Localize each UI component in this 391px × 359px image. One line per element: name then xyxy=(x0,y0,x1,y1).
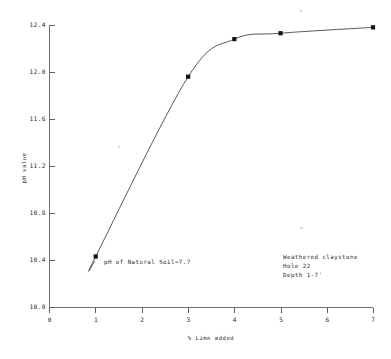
scan-speck xyxy=(118,146,120,148)
y-axis-title: pH value xyxy=(21,152,28,183)
y-tick-label-4: 10.8 xyxy=(29,209,46,216)
x-tick-label-1: 1 xyxy=(94,316,98,323)
y-tick-label-0: 12.4 xyxy=(29,21,46,28)
y-tick-label-6: 10.0 xyxy=(29,303,46,310)
natural-soil-ph-annotation: pH of Natural Soil=7.7 xyxy=(104,259,191,266)
ph-lime-curve-chart: 12.4 12.0 11.6 11.2 10.8 10.4 10.0 0 1 2… xyxy=(0,0,391,359)
chart-figure: 12.4 12.0 11.6 11.2 10.8 10.4 10.0 0 1 2… xyxy=(0,0,391,359)
sample-material-label: Weathered claystone xyxy=(283,254,358,261)
x-tick-label-0: 0 xyxy=(48,316,52,323)
data-point-7 xyxy=(371,25,375,29)
data-curve xyxy=(89,27,373,271)
x-tick-label-3: 3 xyxy=(187,316,191,323)
scan-speck xyxy=(300,227,303,229)
x-tick-label-4: 4 xyxy=(233,316,237,323)
data-point-5 xyxy=(278,31,282,35)
y-tick-label-5: 10.4 xyxy=(29,256,46,263)
sample-hole-label: Hole 22 xyxy=(283,263,311,269)
x-tick-label-7: 7 xyxy=(371,316,375,323)
data-point-1 xyxy=(94,254,98,258)
y-tick-label-2: 11.6 xyxy=(29,115,46,122)
y-tick-label-1: 12.0 xyxy=(29,68,46,75)
data-point-4 xyxy=(232,37,236,41)
sample-depth-label: Depth 1-7' xyxy=(283,272,322,279)
data-point-3 xyxy=(186,75,190,79)
scan-speck xyxy=(300,10,302,12)
y-tick-label-3: 11.2 xyxy=(29,162,46,169)
x-tick-label-5: 5 xyxy=(279,316,283,323)
x-tick-label-6: 6 xyxy=(325,316,329,323)
x-axis-title: % Lime added xyxy=(188,335,234,341)
x-tick-label-2: 2 xyxy=(140,316,144,323)
